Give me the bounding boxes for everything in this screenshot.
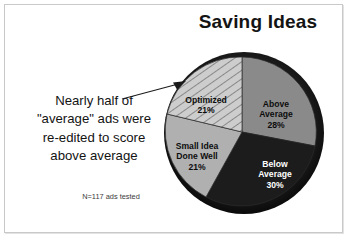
pie-label-above-average-line2: Average [247, 109, 305, 119]
pie-label-below-average-line2: Average [246, 169, 304, 179]
callout-line-2: "average" ads were [8, 110, 180, 128]
pie-label-above-average-value: 28% [247, 120, 305, 130]
pie-label-optimized-value: 21% [176, 105, 236, 115]
pie-label-below-average: Below Average 30% [246, 159, 304, 190]
pie-label-above-average: Above Average 28% [247, 99, 305, 130]
sample-size-footnote: N=117 ads tested [48, 192, 174, 202]
callout-annotation: Nearly half of "average" ads were re-edi… [8, 92, 180, 166]
slide-canvas: Saving Ideas [0, 0, 349, 239]
callout-arrow-line [122, 83, 182, 99]
pie-chart-svg [160, 50, 328, 220]
callout-arrow-head [173, 81, 186, 90]
page-title: Saving Ideas [178, 11, 338, 33]
callout-arrow [120, 78, 192, 102]
pie-label-below-average-line1: Below [246, 159, 304, 169]
callout-line-3: re-edited to score [8, 129, 180, 147]
pie-label-above-average-line1: Above [247, 99, 305, 109]
pie-label-below-average-value: 30% [246, 180, 304, 190]
callout-line-4: above average [8, 147, 180, 165]
pie-chart [160, 50, 328, 220]
